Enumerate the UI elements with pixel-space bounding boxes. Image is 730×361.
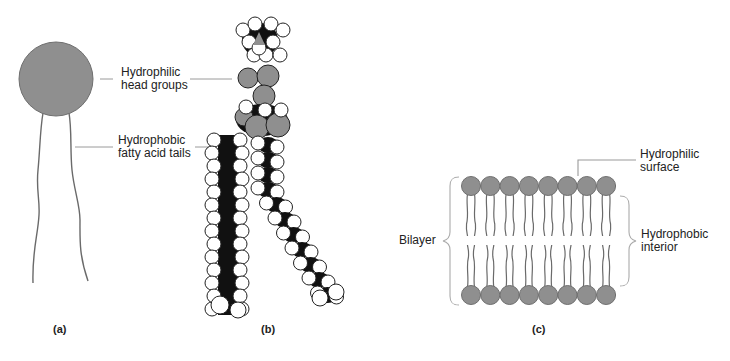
panel-c-bilayer xyxy=(462,177,616,305)
head-group-circle xyxy=(19,42,93,116)
interior-brace xyxy=(620,196,636,286)
panel-label-b: (b) xyxy=(261,323,275,335)
figure-graphics xyxy=(0,0,730,361)
panel-label-a: (a) xyxy=(53,323,66,335)
panel-b-space-filling-model xyxy=(205,17,344,318)
panel-label-c: (c) xyxy=(532,323,545,335)
bilayer-label: Bilayer xyxy=(399,234,436,247)
bilayer-brace xyxy=(443,177,459,305)
tail-right xyxy=(69,113,88,281)
head-groups-label: Hydrophilic head groups xyxy=(121,66,188,92)
phospholipid-figure: Hydrophilic head groups Hydrophobic fatt… xyxy=(0,0,730,361)
surface-leader-line xyxy=(578,160,636,176)
panel-a-phospholipid xyxy=(19,42,93,283)
fatty-acid-tails-label: Hydrophobic fatty acid tails xyxy=(118,134,191,160)
hydrophobic-interior-label: Hydrophobic interior xyxy=(641,228,708,254)
hydrophilic-surface-label: Hydrophilic surface xyxy=(640,148,699,174)
tail-left xyxy=(33,113,43,283)
